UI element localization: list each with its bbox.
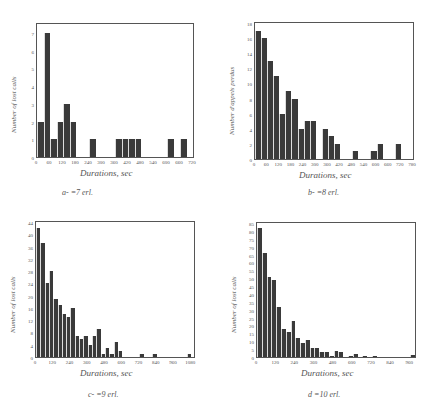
histogram-bar bbox=[310, 121, 316, 159]
x-tick-label: 240 bbox=[84, 160, 92, 165]
y-tick-label: 12 bbox=[19, 319, 33, 324]
x-tick-label: 540 bbox=[360, 162, 368, 167]
y-tick-label: 30 bbox=[240, 308, 254, 313]
histogram-bar bbox=[362, 356, 367, 357]
histogram-bar bbox=[139, 354, 143, 357]
x-tick-label: 720 bbox=[396, 162, 404, 167]
y-tick-label: 5 bbox=[20, 67, 34, 72]
x-tick-label: 60 bbox=[264, 162, 269, 167]
x-tick-label: 600 bbox=[117, 360, 125, 365]
y-tick-label: 4 bbox=[20, 85, 34, 90]
chart-caption: d =10 erl. bbox=[308, 390, 340, 399]
histogram-bar bbox=[352, 151, 358, 159]
y-tick-label: 55 bbox=[240, 269, 254, 274]
plot-area bbox=[36, 23, 194, 158]
y-tick-label: 28 bbox=[19, 270, 33, 275]
y-tick-label: 4 bbox=[238, 127, 252, 132]
x-tick-label: 720 bbox=[135, 360, 143, 365]
y-tick-label: 44 bbox=[19, 221, 33, 226]
x-tick-label: 300 bbox=[311, 162, 319, 167]
y-tick-label: 6 bbox=[238, 112, 252, 117]
histogram-bar bbox=[377, 144, 383, 159]
y-axis-label: Number d'appels perdus bbox=[228, 67, 236, 135]
y-tick-label: 0 bbox=[20, 156, 34, 161]
x-axis-label: Durations, sec bbox=[80, 368, 133, 378]
y-tick-label: 1 bbox=[20, 138, 34, 143]
x-tick-label: 660 bbox=[175, 160, 183, 165]
x-tick-label: 0 bbox=[255, 360, 258, 365]
x-tick-label: 600 bbox=[372, 162, 380, 167]
x-tick-label: 1080 bbox=[185, 360, 195, 365]
y-tick-label: 5 bbox=[240, 348, 254, 353]
y-tick-label: 10 bbox=[240, 340, 254, 345]
y-tick-label: 35 bbox=[240, 300, 254, 305]
y-tick-label: 65 bbox=[240, 253, 254, 258]
x-tick-label: 720 bbox=[188, 160, 196, 165]
y-tick-label: 85 bbox=[240, 222, 254, 227]
y-tick-label: 2 bbox=[238, 142, 252, 147]
x-tick-label: 120 bbox=[58, 160, 66, 165]
y-tick-label: 80 bbox=[240, 229, 254, 234]
y-tick-label: 75 bbox=[240, 237, 254, 242]
x-tick-label: 660 bbox=[384, 162, 392, 167]
y-tick-label: 2 bbox=[20, 120, 34, 125]
x-tick-label: 420 bbox=[335, 162, 343, 167]
x-axis-label: Durations, sec bbox=[80, 168, 133, 178]
histogram-bar bbox=[338, 352, 343, 357]
x-tick-label: 0 bbox=[253, 162, 256, 167]
y-tick-label: 0 bbox=[19, 356, 33, 361]
x-tick-label: 600 bbox=[162, 160, 170, 165]
x-tick-label: 420 bbox=[123, 160, 131, 165]
x-tick-label: 180 bbox=[71, 160, 79, 165]
y-tick-label: 7 bbox=[20, 31, 34, 36]
x-tick-label: 540 bbox=[149, 160, 157, 165]
x-tick-label: 360 bbox=[83, 360, 91, 365]
y-tick-label: 16 bbox=[238, 37, 252, 42]
x-tick-label: 240 bbox=[66, 360, 74, 365]
histogram-bar bbox=[372, 356, 377, 357]
y-tick-label: 14 bbox=[238, 52, 252, 57]
histogram-bar bbox=[89, 139, 96, 157]
histogram-bar bbox=[180, 139, 187, 157]
x-tick-label: 60 bbox=[47, 160, 52, 165]
x-axis-label: Durations, sec bbox=[301, 368, 354, 378]
x-tick-label: 840 bbox=[386, 360, 394, 365]
y-tick-label: 12 bbox=[238, 67, 252, 72]
y-tick-label: 40 bbox=[19, 233, 33, 238]
y-tick-label: 4 bbox=[19, 343, 33, 348]
y-tick-label: 36 bbox=[19, 245, 33, 250]
x-tick-label: 840 bbox=[152, 360, 160, 365]
x-tick-label: 960 bbox=[405, 360, 413, 365]
histogram-bar bbox=[96, 329, 100, 357]
y-axis-label: Number of lost calls bbox=[9, 276, 17, 333]
y-tick-label: 32 bbox=[19, 257, 33, 262]
y-tick-label: 3 bbox=[20, 102, 34, 107]
x-tick-label: 360 bbox=[110, 160, 118, 165]
plot-area bbox=[254, 22, 414, 160]
y-tick-label: 45 bbox=[240, 285, 254, 290]
histogram-bar bbox=[118, 351, 122, 357]
y-tick-label: 40 bbox=[240, 292, 254, 297]
x-tick-label: 240 bbox=[291, 360, 299, 365]
y-tick-label: 70 bbox=[240, 245, 254, 250]
histogram-bar bbox=[187, 354, 191, 357]
x-tick-label: 240 bbox=[299, 162, 307, 167]
x-tick-label: 0 bbox=[34, 360, 37, 365]
x-tick-label: 180 bbox=[287, 162, 295, 167]
y-axis-label: Number of lost calls bbox=[10, 76, 18, 133]
y-tick-label: 6 bbox=[20, 49, 34, 54]
chart-caption: a- =7 erl. bbox=[62, 188, 93, 197]
x-tick-label: 480 bbox=[329, 360, 337, 365]
histogram-bar bbox=[152, 354, 156, 357]
chart-caption: b- =8 erl. bbox=[308, 188, 339, 197]
y-tick-label: 8 bbox=[19, 331, 33, 336]
chart-caption: c- =9 erl. bbox=[88, 390, 119, 399]
y-tick-label: 20 bbox=[19, 294, 33, 299]
y-axis-label: Number of lost calls bbox=[230, 276, 238, 333]
x-tick-label: 120 bbox=[48, 360, 56, 365]
x-axis-label: Durations, sec bbox=[299, 170, 352, 180]
x-tick-label: 720 bbox=[367, 360, 375, 365]
histogram-bar bbox=[353, 354, 358, 357]
x-tick-label: 120 bbox=[275, 162, 283, 167]
histogram-bar bbox=[395, 144, 401, 159]
